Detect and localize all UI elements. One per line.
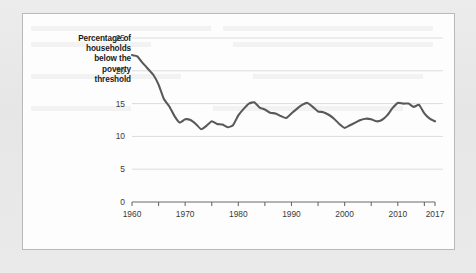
x-tick-label: 2017 (426, 209, 445, 219)
x-tick-label: 1980 (229, 209, 248, 219)
x-tick-label: 2000 (335, 209, 354, 219)
y-tick-label: 10 (116, 131, 126, 141)
x-tick-label: 1990 (282, 209, 301, 219)
y-tick-label: 25 (116, 33, 126, 43)
poverty-rate-line-chart: 0510152025 1960197019801990200020102017 (23, 14, 455, 250)
x-axis-tick-labels: 1960197019801990200020102017 (123, 209, 445, 219)
y-tick-label: 5 (120, 164, 125, 174)
x-tick-label: 2010 (388, 209, 407, 219)
y-axis-tick-labels: 0510152025 (116, 33, 126, 207)
figure-card: Percentage of households below the pover… (22, 13, 455, 250)
x-tick-label: 1970 (176, 209, 195, 219)
x-axis (132, 202, 435, 206)
y-tick-label: 15 (116, 99, 126, 109)
y-tick-label: 20 (116, 66, 126, 76)
data-series-line (132, 55, 435, 129)
x-tick-label: 1960 (123, 209, 142, 219)
y-tick-label: 0 (120, 197, 125, 207)
